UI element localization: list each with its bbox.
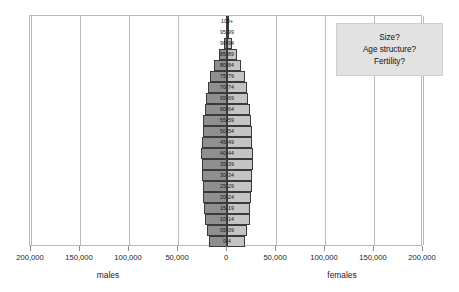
- bar-male-15-19: [204, 203, 227, 214]
- age-band-row: 45-49: [30, 137, 421, 148]
- bar-male-05-09: [207, 225, 227, 236]
- bar-female-30-34: [227, 170, 252, 181]
- callout-line-fertility: Fertility?: [374, 57, 405, 66]
- question-callout-box: Size? Age structure? Fertility?: [336, 23, 443, 76]
- bar-male-35-39: [202, 159, 227, 170]
- bar-female-20-24: [227, 192, 251, 203]
- callout-line-age-structure: Age structure?: [363, 45, 416, 54]
- bar-male-10-14: [205, 214, 227, 225]
- population-pyramid-chart: 100+95-9990-9485-8980-8475-7970-7465-696…: [0, 0, 459, 292]
- bar-female-55-59: [227, 115, 251, 126]
- axis-label-females: females: [300, 270, 384, 280]
- bar-female-15-19: [227, 203, 250, 214]
- age-band-row: 70-74: [30, 82, 421, 93]
- bar-male-25-29: [203, 181, 228, 192]
- bar-female-40-44: [227, 148, 253, 159]
- bar-female-50-54: [227, 126, 252, 137]
- x-tick-8: [422, 246, 423, 251]
- bar-female-70-74: [227, 82, 247, 93]
- age-band-row: 05-09: [30, 225, 421, 236]
- age-band-row: 15-19: [30, 203, 421, 214]
- bar-female-45-49: [227, 137, 252, 148]
- bar-male-20-24: [203, 192, 227, 203]
- bar-female-35-39: [227, 159, 253, 170]
- age-band-row: 55-59: [30, 115, 421, 126]
- age-band-row: 65-69: [30, 93, 421, 104]
- age-band-row: 25-29: [30, 181, 421, 192]
- callout-line-size: Size?: [379, 33, 399, 42]
- age-band-row: 20-24: [30, 192, 421, 203]
- axis-label-males: males: [66, 270, 150, 280]
- age-band-row: 35-39: [30, 159, 421, 170]
- x-tick-label-8: 200,000: [392, 253, 452, 262]
- bar-female-10-14: [227, 214, 250, 225]
- bar-female-75-79: [227, 71, 245, 82]
- bar-male-0-4: [209, 236, 227, 247]
- x-tick-3: [177, 246, 178, 251]
- bar-female-0-4: [227, 236, 245, 247]
- bar-male-55-59: [203, 115, 227, 126]
- bar-female-100+: [227, 16, 229, 27]
- bar-male-70-74: [208, 82, 227, 93]
- bar-male-40-44: [201, 148, 227, 159]
- bar-female-05-09: [227, 225, 247, 236]
- bar-male-45-49: [202, 137, 227, 148]
- age-band-row: 40-44: [30, 148, 421, 159]
- age-band-row: 50-54: [30, 126, 421, 137]
- age-band-row: 10-14: [30, 214, 421, 225]
- bar-female-95-99: [227, 27, 229, 38]
- x-tick-5: [275, 246, 276, 251]
- x-tick-6: [324, 246, 325, 251]
- bar-female-65-69: [227, 93, 248, 104]
- bar-female-80-84: [227, 60, 241, 71]
- bar-male-50-54: [203, 126, 227, 137]
- bar-female-90-94: [227, 38, 232, 49]
- bar-male-85-89: [219, 49, 227, 60]
- x-tick-1: [79, 246, 80, 251]
- bar-male-65-69: [206, 93, 227, 104]
- bar-male-75-79: [210, 71, 227, 82]
- x-tick-4: [226, 246, 227, 251]
- age-band-row: 30-34: [30, 170, 421, 181]
- bar-male-30-34: [202, 170, 227, 181]
- bar-female-60-64: [227, 104, 250, 115]
- bar-male-60-64: [205, 104, 227, 115]
- bar-male-80-84: [214, 60, 227, 71]
- x-tick-7: [373, 246, 374, 251]
- age-band-row: 60-64: [30, 104, 421, 115]
- bar-female-85-89: [227, 49, 237, 60]
- bar-female-25-29: [227, 181, 252, 192]
- x-tick-0: [30, 246, 31, 251]
- x-tick-2: [128, 246, 129, 251]
